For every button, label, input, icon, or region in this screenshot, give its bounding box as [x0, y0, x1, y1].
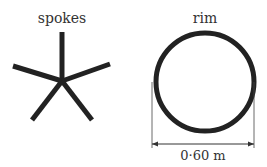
diameter-dimension: 0·60 m: [152, 82, 254, 163]
spoke-2: [13, 66, 62, 81]
diagram-canvas: spokes rim 0·60 m: [0, 0, 267, 167]
spoke-5: [62, 81, 92, 120]
rim-figure: rim 0·60 m: [152, 10, 254, 163]
rim-circle: [156, 33, 254, 131]
spokes-label: spokes: [38, 10, 87, 26]
rim-label: rim: [193, 10, 217, 26]
spoke-3: [62, 64, 110, 81]
spoke-lines: [13, 32, 110, 120]
spokes-figure: spokes: [13, 10, 110, 120]
spoke-4: [32, 81, 62, 120]
diameter-label: 0·60 m: [180, 148, 225, 163]
